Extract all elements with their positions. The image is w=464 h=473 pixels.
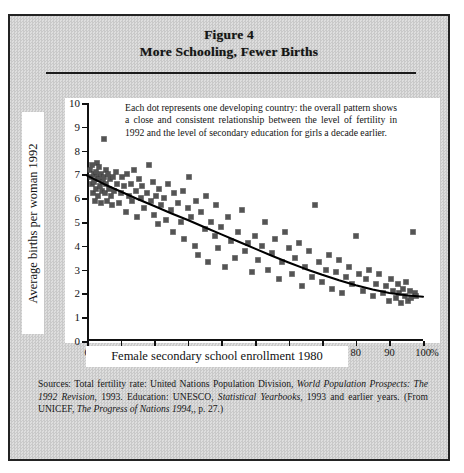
- figure-caption: Sources: Total fertility rate: United Na…: [38, 378, 428, 416]
- y-tick-label: 9: [75, 121, 81, 133]
- y-tick-label: 2: [75, 287, 81, 299]
- x-axis-title: Female secondary school enrollment 1980: [86, 346, 348, 367]
- caption-italic-2: Statistical Yearbooks: [218, 391, 300, 402]
- x-tick: [389, 341, 391, 346]
- figure-title: More Schooling, Fewer Births: [10, 43, 448, 60]
- caption-part-1: Sources: Total fertility rate: United Na…: [38, 378, 297, 389]
- x-tick-label: 100: [415, 347, 431, 358]
- y-axis-title: Average births per woman 1992: [22, 112, 44, 334]
- caption-italic-3: The Progress of Nations 1994: [77, 403, 191, 414]
- x-axis-title-text: Female secondary school enrollment 1980: [111, 349, 323, 364]
- y-tick-label: 6: [75, 192, 81, 204]
- title-divider: [46, 72, 416, 74]
- figure-title-block: Figure 4 More Schooling, Fewer Births: [10, 26, 448, 60]
- y-tick-label: 7: [75, 168, 81, 180]
- plot-panel: 012345678910 0102030405060708090100 % Ea…: [65, 98, 440, 343]
- x-tick-label: 80: [351, 347, 362, 358]
- x-tick: [356, 341, 358, 346]
- chart-annotation: Each dot represents one developing count…: [125, 102, 397, 139]
- x-tick-label: 90: [384, 347, 395, 358]
- percent-symbol: %: [430, 347, 439, 358]
- x-tick: [423, 341, 425, 346]
- y-tick-label: 10: [69, 97, 80, 109]
- caption-part-2: , 1993. Education: UNESCO,: [94, 391, 217, 402]
- y-tick-label: 1: [75, 311, 81, 323]
- figure-panel: Figure 4 More Schooling, Fewer Births Av…: [8, 14, 450, 461]
- y-tick-label: 3: [75, 264, 81, 276]
- y-tick-label: 0: [75, 335, 81, 347]
- y-axis-title-text: Average births per woman 1992: [26, 143, 41, 303]
- y-tick-label: 4: [75, 240, 81, 252]
- caption-part-4: ,, p. 27.): [191, 403, 223, 414]
- figure-number: Figure 4: [10, 26, 448, 43]
- y-tick-label: 5: [75, 216, 81, 228]
- y-tick-label: 8: [75, 145, 81, 157]
